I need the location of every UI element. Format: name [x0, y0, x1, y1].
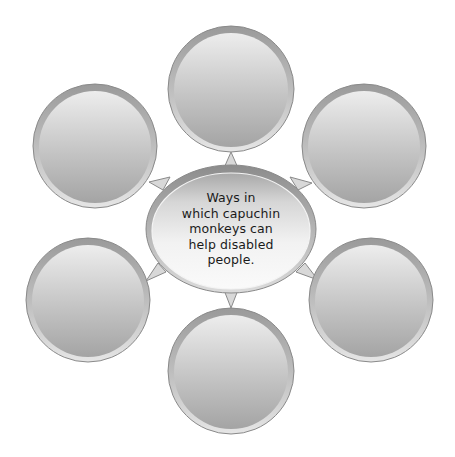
- center-line-1: Ways in: [166, 190, 296, 206]
- bubble-top[interactable]: [168, 26, 294, 152]
- center-line-5: people.: [166, 252, 296, 268]
- center-line-3: monkeys can: [166, 221, 296, 237]
- center-line-4: help disabled: [166, 237, 296, 253]
- bubble-bottom[interactable]: [168, 308, 294, 434]
- center-topic-text: Ways in which capuchin monkeys can help …: [166, 190, 296, 268]
- bubble-top-left[interactable]: [33, 84, 157, 208]
- bubble-bottom-left[interactable]: [26, 238, 150, 362]
- bubble-top-right[interactable]: [302, 84, 426, 208]
- center-line-2: which capuchin: [166, 206, 296, 222]
- bubble-bottom-right[interactable]: [309, 238, 433, 362]
